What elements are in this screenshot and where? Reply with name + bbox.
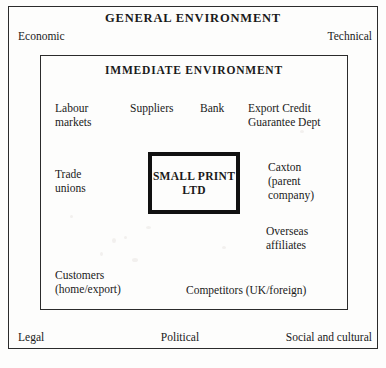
immediate-environment-heading: IMMEDIATE ENVIRONMENT — [40, 64, 348, 76]
general-environment-heading: GENERAL ENVIRONMENT — [0, 11, 386, 26]
factor-overseas-affiliates: Overseas affiliates — [266, 224, 308, 252]
factor-trade-unions: Trade unions — [55, 167, 86, 195]
factor-labour-markets: Labour markets — [55, 101, 91, 129]
core-organisation-label: SMALL PRINT LTD — [152, 169, 236, 197]
diagram-canvas: GENERAL ENVIRONMENT Economic Technical L… — [0, 0, 386, 368]
factor-competitors-uk-foreign: Competitors (UK/foreign) — [186, 283, 306, 297]
factor-suppliers: Suppliers — [130, 101, 173, 115]
factor-customers-home-export: Customers (home/export) — [55, 268, 121, 296]
factor-caxton-parent-company: Caxton (parent company) — [268, 160, 314, 202]
factor-economic: Economic — [18, 29, 65, 43]
factor-technical: Technical — [298, 29, 372, 43]
factor-social-and-cultural: Social and cultural — [248, 330, 372, 344]
factor-legal: Legal — [18, 330, 44, 344]
core-organisation-box: SMALL PRINT LTD — [148, 152, 240, 214]
factor-bank: Bank — [200, 101, 224, 115]
factor-political: Political — [140, 330, 220, 344]
factor-export-credit-guarantee-dept: Export Credit Guarantee Dept — [248, 101, 320, 129]
